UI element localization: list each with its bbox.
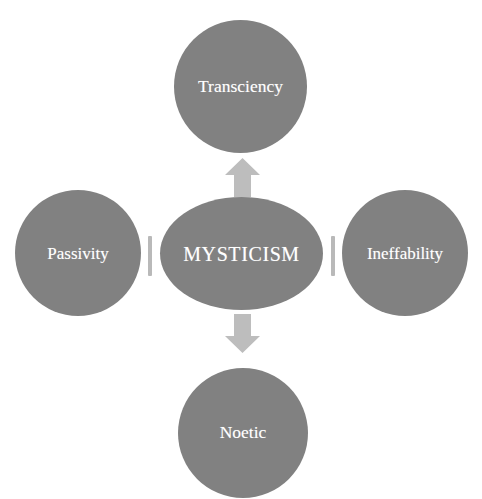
vertical-bar-icon-left [148,236,152,276]
node-ineffability[interactable]: Ineffability [342,190,468,316]
arrow-up-icon [220,155,265,200]
node-noetic[interactable]: Noetic [178,368,308,498]
node-transciency-label: Transciency [198,78,283,96]
node-noetic-label: Noetic [220,424,267,442]
node-passivity[interactable]: Passivity [15,190,141,316]
node-ineffability-label: Ineffability [367,245,443,262]
arrow-down-icon [220,311,265,356]
mysticism-diagram: Transciency Passivity MYSTICISM Ineffabi… [0,0,482,499]
node-passivity-label: Passivity [47,245,108,262]
node-mysticism-center[interactable]: MYSTICISM [160,197,323,310]
scan-artifact [0,0,482,8]
vertical-bar-icon-right [331,236,335,276]
node-transciency[interactable]: Transciency [174,20,307,153]
node-mysticism-label: MYSTICISM [183,244,300,264]
